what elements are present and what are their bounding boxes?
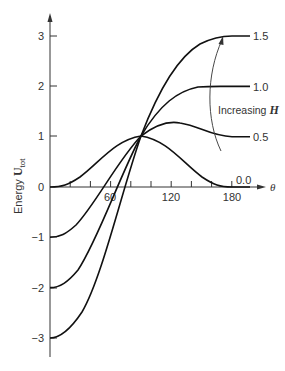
curve-label-0-0: 0.0 bbox=[236, 174, 251, 186]
x-ticks bbox=[70, 181, 232, 187]
x-tick-180: 180 bbox=[223, 191, 241, 203]
y-tick-m3: −3 bbox=[31, 332, 44, 344]
curve-label-1-5: 1.5 bbox=[253, 30, 268, 42]
curve-h-0-5 bbox=[50, 122, 250, 237]
y-tick-labels: 3 2 1 0 −1 −2 −3 bbox=[31, 30, 44, 344]
y-axis-label: Energy Utot bbox=[11, 158, 27, 214]
y-tick-2: 2 bbox=[38, 80, 44, 92]
y-tick-m1: −1 bbox=[31, 231, 44, 243]
x-axis-label: θ bbox=[270, 181, 276, 193]
annotation-text: Increasing H bbox=[218, 103, 279, 117]
y-tick-0: 0 bbox=[38, 181, 44, 193]
y-axis-arrow-icon bbox=[48, 13, 53, 22]
y-tick-1: 1 bbox=[38, 130, 44, 142]
y-tick-m2: −2 bbox=[31, 282, 44, 294]
curve-h-0-0 bbox=[50, 136, 250, 187]
x-tick-labels: 60 120 180 bbox=[104, 191, 241, 203]
axes bbox=[48, 13, 267, 357]
curve-label-1-0: 1.0 bbox=[253, 81, 268, 93]
x-tick-120: 120 bbox=[162, 191, 180, 203]
y-tick-3: 3 bbox=[38, 30, 44, 42]
x-axis-arrow-icon bbox=[257, 185, 266, 190]
energy-vs-theta-chart: 3 2 1 0 −1 −2 −3 60 120 180 θ Energy Uto… bbox=[0, 0, 285, 371]
curve-label-0-5: 0.5 bbox=[253, 131, 268, 143]
increasing-h-annotation: Increasing H bbox=[210, 36, 280, 151]
